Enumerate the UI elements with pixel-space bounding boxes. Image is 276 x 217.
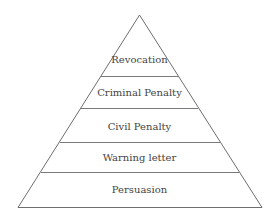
level-label-warning-letter: Warning letter bbox=[103, 152, 177, 163]
level-label-criminal-penalty: Criminal Penalty bbox=[97, 87, 182, 98]
level-label-persuasion: Persuasion bbox=[112, 184, 168, 195]
enforcement-pyramid: Revocation Criminal Penalty Civil Penalt… bbox=[0, 0, 276, 217]
level-label-civil-penalty: Civil Penalty bbox=[108, 121, 172, 132]
pyramid-outline bbox=[18, 15, 262, 208]
level-label-revocation: Revocation bbox=[111, 54, 168, 65]
